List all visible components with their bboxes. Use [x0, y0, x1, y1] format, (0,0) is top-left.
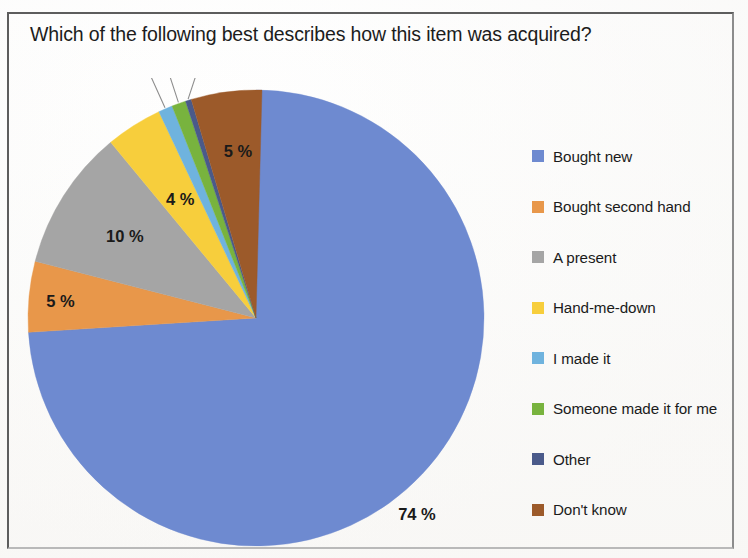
pie-slice-value-label: 74 % — [398, 505, 436, 523]
pie-slice-value-label: 5 % — [46, 292, 75, 310]
chart-title: Which of the following best describes ho… — [30, 23, 690, 46]
legend-color-swatch — [532, 201, 544, 213]
legend-item[interactable]: Don't know — [532, 485, 738, 536]
legend-item[interactable]: I made it — [532, 333, 738, 384]
legend-item-label: Bought new — [553, 148, 632, 165]
pie-plot-area: 74 %5 %10 %4 %1 %1 %0 %5 % — [18, 78, 496, 548]
legend-item[interactable]: Bought second hand — [532, 182, 738, 233]
legend-item-label: I made it — [553, 350, 610, 367]
legend-item-label: Other — [553, 451, 590, 468]
legend-color-swatch — [532, 150, 544, 162]
legend-item-label: Hand-me-down — [553, 299, 656, 316]
legend-item[interactable]: Someone made it for me — [532, 384, 738, 435]
legend-item-label: A present — [553, 249, 616, 266]
legend-item-label: Someone made it for me — [553, 400, 717, 417]
legend-color-swatch — [532, 251, 544, 263]
legend-item[interactable]: Bought new — [532, 131, 738, 182]
legend-color-swatch — [532, 504, 544, 516]
legend-color-swatch — [532, 453, 544, 465]
legend-item[interactable]: A present — [532, 232, 738, 283]
legend-item-label: Don't know — [553, 501, 627, 518]
legend-color-swatch — [532, 403, 544, 415]
pie-slice-value-label: 4 % — [166, 190, 195, 208]
legend-color-swatch — [532, 352, 544, 364]
pie-slice-group — [28, 90, 484, 546]
legend-item[interactable]: Other — [532, 434, 738, 485]
pie-slice-value-label: 5 % — [224, 142, 253, 160]
pie-chart-figure: Which of the following best describes ho… — [0, 0, 748, 558]
pie-label-leader-line — [124, 78, 165, 108]
legend-item[interactable]: Hand-me-down — [532, 283, 738, 334]
pie-svg: 74 %5 %10 %4 %1 %1 %0 %5 % — [18, 78, 496, 548]
pie-slice-value-label: 10 % — [106, 227, 144, 245]
legend-color-swatch — [532, 302, 544, 314]
legend-item-label: Bought second hand — [553, 198, 691, 215]
pie-label-leader-line — [130, 78, 179, 102]
chart-legend: Bought newBought second handA presentHan… — [532, 131, 738, 535]
